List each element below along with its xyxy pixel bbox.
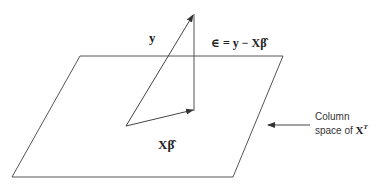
column-space-plane — [12, 56, 283, 177]
least-squares-diagram: y ∈ = y − Xβ̂ Xβ̂ Column space of XT — [0, 0, 378, 185]
plane-label-sup: T — [364, 123, 369, 131]
plane-label-math: X — [356, 124, 364, 136]
plane-label-text: space of — [315, 125, 356, 136]
residual-label: ∈ = y − Xβ̂ — [211, 36, 269, 50]
vector-projection — [126, 110, 193, 126]
vector-y — [126, 15, 193, 126]
vector-y-label: y — [149, 30, 156, 45]
projection-label: Xβ̂ — [158, 137, 177, 152]
plane-label-line1: Column — [315, 111, 349, 122]
plane-label-line2: space of XT — [315, 123, 369, 136]
